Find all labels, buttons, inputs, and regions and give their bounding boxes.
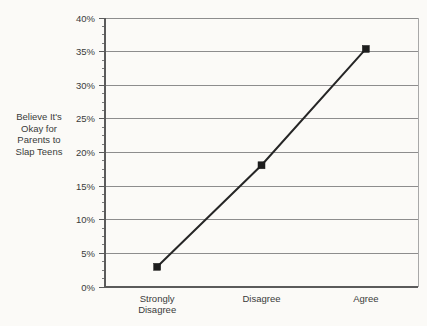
y-tick-label-35: 35% — [76, 46, 96, 57]
y-tick-label-20: 20% — [76, 147, 96, 158]
data-point-marker — [362, 45, 369, 52]
x-category-label: Strongly — [140, 293, 175, 304]
y-tick-label-25: 25% — [76, 113, 96, 124]
y-tick-label-15: 15% — [76, 181, 96, 192]
y-axis-title-line: Okay for — [21, 123, 57, 134]
y-axis-title-line: Parents to — [17, 134, 60, 145]
y-axis-title-line: Believe It's — [16, 111, 62, 122]
data-point-marker — [258, 162, 265, 169]
y-tick-label-40: 40% — [76, 13, 96, 24]
x-category-label: Disagree — [242, 293, 280, 304]
y-tick-label-5: 5% — [81, 248, 95, 259]
y-tick-label-30: 30% — [76, 80, 96, 91]
chart-container: 0%5%10%15%20%25%30%35%40% StronglyDisagr… — [0, 0, 427, 326]
x-category-label: Disagree — [138, 304, 176, 315]
x-category-label: Agree — [353, 293, 378, 304]
y-axis-title-line: Slap Teens — [16, 146, 63, 157]
line-chart: 0%5%10%15%20%25%30%35%40% StronglyDisagr… — [0, 0, 427, 326]
data-point-marker — [154, 263, 161, 270]
y-tick-label-10: 10% — [76, 214, 96, 225]
y-axis-title: Believe It'sOkay forParents toSlap Teens — [16, 111, 63, 157]
y-tick-label-0: 0% — [81, 282, 95, 293]
